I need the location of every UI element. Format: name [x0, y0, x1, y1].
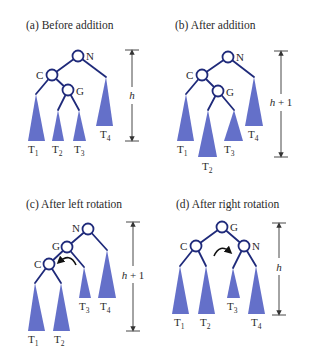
subtree-label-t1: T1: [28, 333, 39, 348]
node-n: [223, 52, 234, 63]
panel-title: (d) After right rotation: [176, 198, 279, 211]
node-c: [47, 70, 58, 81]
subtree-label-t2: T2: [54, 333, 65, 348]
subtree-t4: [245, 77, 263, 126]
node-label-n: N: [252, 240, 260, 252]
node-g: [62, 242, 73, 253]
panel-b-after-addition: (b) After addition N C G T1 T2 T3 T4 h +…: [175, 19, 292, 175]
node-label-n: N: [236, 51, 244, 63]
height-indicator: h: [272, 223, 286, 315]
subtree-label-t1: T1: [177, 143, 188, 158]
avl-rotation-diagram: (a) Before addition N C G T1 T2 T3 T4: [0, 0, 309, 360]
subtree-t4: [98, 250, 116, 298]
subtree-label-t2: T2: [202, 160, 213, 175]
subtree-t2: [53, 283, 70, 331]
subtree-t4: [248, 266, 265, 314]
subtree-label-t4: T4: [248, 128, 259, 143]
height-label: h: [276, 261, 282, 273]
height-indicator: h + 1: [270, 51, 293, 157]
node-n: [83, 224, 94, 235]
subtree-t1: [28, 283, 45, 331]
node-label-g: G: [226, 86, 234, 98]
node-label-c: C: [34, 258, 41, 270]
subtree-t1: [177, 94, 194, 141]
node-label-g: G: [230, 221, 238, 233]
subtree-t4: [96, 77, 113, 126]
node-label-n: N: [72, 222, 80, 234]
node-n: [73, 51, 84, 62]
subtree-label-t3: T3: [227, 300, 238, 315]
subtree-label-t3: T3: [74, 143, 85, 158]
subtree-label-t2: T2: [200, 316, 211, 331]
node-label-c: C: [186, 69, 193, 81]
node-label-c: C: [36, 69, 43, 81]
panel-title: (a) Before addition: [26, 19, 114, 32]
subtree-t2: [52, 110, 64, 141]
subtree-t3: [224, 110, 243, 141]
subtree-label-t3: T3: [224, 143, 235, 158]
panel-d-after-right-rotation: (d) After right rotation G C N T1 T2 T3 …: [172, 198, 286, 331]
subtree-label-t1: T1: [28, 143, 39, 158]
subtree-t1: [28, 94, 45, 141]
panel-c-after-left-rotation: (c) After left rotation N G C T1 T2 T3 T…: [26, 198, 144, 348]
subtree-t3: [227, 268, 240, 298]
node-label-c: C: [180, 240, 187, 252]
rotation-arrow-icon: [214, 248, 230, 256]
node-label-g: G: [76, 85, 84, 97]
subtree-t3: [73, 110, 86, 141]
subtree-label-t4: T4: [100, 300, 111, 315]
node-c: [44, 259, 55, 270]
rotation-arrow-icon: [59, 258, 76, 265]
height-label: h + 1: [270, 96, 293, 108]
panel-title: (c) After left rotation: [26, 198, 122, 211]
subtree-t1: [172, 266, 189, 314]
subtree-label-t1: T1: [174, 316, 185, 331]
node-c: [191, 241, 202, 252]
node-n: [239, 241, 250, 252]
subtree-label-t2: T2: [52, 143, 63, 158]
height-label: h: [129, 89, 135, 101]
subtree-label-t4: T4: [251, 316, 262, 331]
height-indicator: h: [125, 50, 139, 141]
height-indicator: h + 1: [122, 222, 145, 331]
panel-title: (b) After addition: [175, 19, 256, 32]
height-label: h + 1: [122, 269, 145, 281]
subtree-label-t4: T4: [100, 128, 111, 143]
node-c: [197, 70, 208, 81]
subtree-t3: [79, 267, 91, 298]
subtree-label-t3: T3: [79, 300, 90, 315]
node-g: [63, 85, 74, 96]
panel-a-before-addition: (a) Before addition N C G T1 T2 T3 T4: [26, 19, 139, 158]
subtree-t2: [198, 110, 217, 157]
node-label-n: N: [86, 50, 94, 62]
node-label-g: G: [52, 240, 60, 252]
subtree-t2: [198, 266, 215, 314]
node-g: [217, 222, 228, 233]
node-g: [213, 86, 224, 97]
